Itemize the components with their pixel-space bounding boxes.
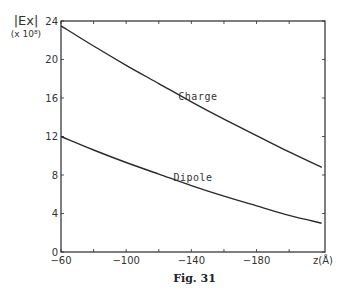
y-tick-label: 16 xyxy=(45,93,58,104)
y-tick-label: 20 xyxy=(45,54,58,65)
y-tick-label: 4 xyxy=(52,208,58,219)
x-axis-unit-label: z(Å) xyxy=(313,255,333,266)
data-curves xyxy=(61,26,322,223)
y-axis-label: |Ex| (x 10⁸) xyxy=(4,14,48,39)
x-tick-label: −180 xyxy=(243,255,270,266)
axis-ticks xyxy=(61,21,325,252)
x-tick-label: −140 xyxy=(178,255,205,266)
y-tick-label: 12 xyxy=(45,131,58,142)
y-tick-label: 0 xyxy=(52,247,58,258)
plot-frame xyxy=(61,21,325,252)
axis-tick-labels: −60−100−140−18004812162024 xyxy=(45,16,270,267)
curve-label-dipole: Dipole xyxy=(173,172,212,183)
y-axis-label-main: |Ex| xyxy=(4,14,48,29)
y-tick-label: 8 xyxy=(52,170,58,181)
x-tick-label: −100 xyxy=(112,255,139,266)
y-axis-label-multiplier: (x 10⁸) xyxy=(4,29,48,39)
figure-caption: Fig. 31 xyxy=(0,272,347,285)
line-chart: −60−100−140−18004812162024 ChargeDipole xyxy=(0,0,347,291)
curve-label-charge: Charge xyxy=(178,91,217,102)
